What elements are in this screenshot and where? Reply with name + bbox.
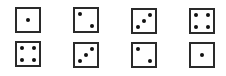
pip-dot	[78, 12, 82, 16]
pip-dot	[32, 46, 36, 50]
pip-dot	[20, 46, 24, 50]
pip-dot	[148, 13, 152, 17]
die-face-3	[73, 42, 99, 68]
pip-dot	[136, 47, 140, 51]
pip-dot	[206, 25, 210, 29]
die-face-4	[15, 41, 41, 67]
pip-dot	[90, 24, 94, 28]
pip-dot	[206, 13, 210, 17]
die-face-3	[131, 8, 157, 34]
pip-dot	[148, 59, 152, 63]
pip-dot	[78, 59, 82, 63]
die-face-2	[73, 7, 99, 33]
pip-dot	[194, 13, 198, 17]
pip-dot	[136, 25, 140, 29]
pip-dot	[20, 58, 24, 62]
pip-dot	[90, 47, 94, 51]
pip-dot	[142, 19, 146, 23]
pip-dot	[26, 18, 30, 22]
die-face-1	[15, 7, 41, 33]
die-face-1	[189, 42, 215, 68]
pip-dot	[194, 25, 198, 29]
pip-dot	[32, 58, 36, 62]
pip-dot	[84, 53, 88, 57]
die-face-2	[131, 42, 157, 68]
pip-dot	[200, 53, 204, 57]
die-face-4	[189, 8, 215, 34]
